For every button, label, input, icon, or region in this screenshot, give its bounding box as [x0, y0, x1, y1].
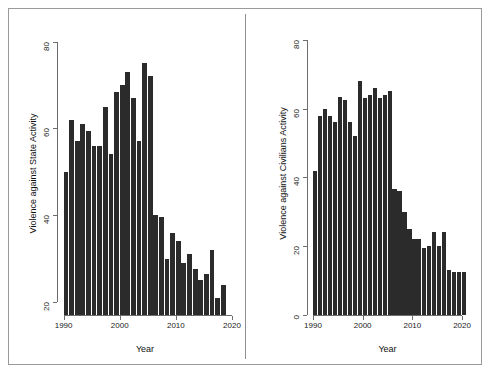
x-tick: [232, 316, 233, 320]
bar: [328, 116, 332, 315]
y-tick: [303, 246, 307, 247]
x-tick-label: 2000: [343, 322, 383, 330]
bar: [422, 248, 426, 315]
bar: [388, 91, 392, 315]
bar: [407, 229, 411, 315]
y-tick-label: 60: [43, 128, 51, 158]
bar: [92, 146, 97, 315]
y-axis-title: Violence against Civilians Activity: [279, 24, 288, 324]
bar: [198, 280, 203, 315]
bar: [432, 232, 436, 315]
bar: [120, 85, 125, 315]
bar: [368, 95, 372, 315]
bar: [323, 109, 327, 315]
x-tick: [176, 316, 177, 320]
bar: [210, 250, 215, 315]
x-tick: [363, 316, 364, 320]
bar: [348, 122, 352, 315]
x-tick: [64, 316, 65, 320]
y-tick-label: 80: [43, 42, 51, 72]
bar: [125, 72, 130, 315]
bar: [427, 246, 431, 315]
x-tick-label: 2000: [100, 322, 140, 330]
bar: [131, 98, 136, 315]
bar: [97, 146, 102, 315]
bar: [437, 246, 441, 315]
chart-panel-right: 0204060801990200020102020Violence agains…: [245, 0, 492, 380]
y-tick-label: 20: [293, 246, 301, 276]
bar: [318, 116, 322, 315]
bar: [165, 259, 170, 315]
bar: [363, 98, 367, 315]
bar: [204, 274, 209, 315]
bar: [109, 154, 114, 315]
bar: [221, 285, 226, 315]
x-axis-title: Year: [288, 345, 487, 354]
bar: [447, 270, 451, 315]
bar: [75, 141, 80, 315]
bar: [402, 212, 406, 315]
bar: [170, 233, 175, 315]
bar: [457, 272, 461, 315]
y-axis-line: [57, 42, 58, 302]
bar: [86, 131, 91, 315]
y-tick-label: 80: [293, 40, 301, 70]
bar: [373, 88, 377, 315]
x-tick: [120, 316, 121, 320]
y-axis-title: Violence against State Activity: [29, 24, 38, 324]
x-tick: [412, 316, 413, 320]
bar: [142, 63, 147, 315]
bar: [333, 122, 337, 315]
y-tick-label: 40: [293, 177, 301, 207]
y-tick: [303, 40, 307, 41]
bar: [176, 241, 181, 315]
bar: [181, 263, 186, 315]
y-tick-label: 40: [43, 215, 51, 245]
bar: [103, 107, 108, 315]
bar: [69, 120, 74, 315]
bar: [159, 217, 164, 315]
y-tick: [303, 315, 307, 316]
x-tick-label: 2020: [442, 322, 482, 330]
y-tick: [53, 215, 57, 216]
bar: [137, 141, 142, 315]
x-tick-label: 1990: [44, 322, 84, 330]
y-tick-label: 60: [293, 109, 301, 139]
bar: [417, 239, 421, 315]
x-axis-title: Year: [38, 345, 252, 354]
y-tick: [303, 109, 307, 110]
bar: [64, 172, 69, 315]
bar: [148, 76, 153, 315]
x-tick-label: 2010: [156, 322, 196, 330]
bar: [193, 269, 198, 315]
figure-canvas: 204060801990200020102020Violence against…: [0, 0, 492, 380]
x-tick-label: 1990: [293, 322, 333, 330]
bar: [114, 92, 119, 315]
y-tick: [53, 302, 57, 303]
bar: [462, 272, 466, 315]
y-axis-line: [307, 40, 308, 315]
plot-area: [58, 33, 232, 315]
plot-area: [308, 33, 467, 315]
bar: [397, 191, 401, 315]
bar: [80, 124, 85, 315]
bar: [383, 95, 387, 315]
bar: [338, 97, 342, 315]
bar: [412, 239, 416, 315]
bar: [392, 189, 396, 315]
chart-panel-left: 204060801990200020102020Violence against…: [0, 0, 245, 380]
bar: [313, 171, 317, 315]
bar: [452, 272, 456, 315]
bar: [343, 100, 347, 315]
y-tick: [53, 128, 57, 129]
bar: [353, 136, 357, 315]
x-axis-line: [64, 315, 232, 316]
x-axis-line: [313, 315, 462, 316]
bar: [187, 254, 192, 315]
bar: [442, 232, 446, 315]
y-tick-label: 0: [293, 315, 301, 345]
x-tick-label: 2010: [392, 322, 432, 330]
x-tick: [462, 316, 463, 320]
x-tick: [313, 316, 314, 320]
y-tick: [303, 177, 307, 178]
